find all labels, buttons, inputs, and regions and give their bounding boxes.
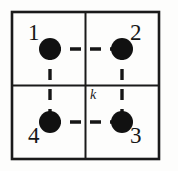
lattice-diagram-svg xyxy=(0,0,178,171)
node-label-1: 1 xyxy=(28,21,40,44)
node-label-3: 3 xyxy=(130,124,142,147)
node-1 xyxy=(39,38,61,60)
coupling-constant-label: k xyxy=(90,88,96,102)
node-label-2: 2 xyxy=(130,21,142,44)
node-label-4: 4 xyxy=(28,124,40,147)
figure-root: 1 2 3 4 k xyxy=(0,0,178,171)
node-4 xyxy=(39,111,61,133)
